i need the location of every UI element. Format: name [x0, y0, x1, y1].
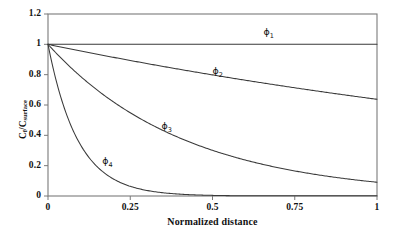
figure-container: Cf/Csurface Normalized distance 00.20.40…	[0, 0, 396, 245]
x-tick-label: 0.75	[280, 202, 310, 212]
phi-index: 1	[270, 32, 274, 40]
y-tick-label: 1.2	[29, 8, 41, 18]
y-tick-label: 1	[36, 38, 41, 48]
phi-index: 2	[219, 71, 223, 79]
y-tick-label: 0.4	[29, 129, 41, 139]
y-tick-label: 0.8	[29, 69, 41, 79]
y-axis-title-sub-surface: surface	[21, 100, 28, 120]
y-tick-label: 0.2	[29, 160, 41, 170]
phi-index: 3	[168, 126, 172, 134]
x-tick-label: 0.5	[198, 202, 228, 212]
curve-label-2: ϕ2	[213, 65, 223, 79]
y-axis-title-slash: /C	[18, 120, 28, 130]
curve-label-4: ϕ4	[102, 155, 112, 169]
curve-label-1: ϕ1	[263, 26, 273, 40]
y-axis-title-sub-f: f	[21, 130, 28, 132]
x-tick-label: 0.25	[115, 202, 145, 212]
y-axis-title-main: C	[18, 132, 28, 139]
curve-label-3: ϕ3	[162, 120, 172, 134]
y-axis-title: Cf/Csurface	[18, 100, 28, 139]
y-tick-label: 0	[36, 190, 41, 200]
x-tick-label: 0	[33, 202, 63, 212]
x-axis-title: Normalized distance	[48, 216, 377, 227]
plot-frame	[48, 14, 377, 196]
x-tick-label: 1	[362, 202, 392, 212]
phi-index: 4	[109, 161, 113, 169]
y-tick-label: 0.6	[29, 99, 41, 109]
